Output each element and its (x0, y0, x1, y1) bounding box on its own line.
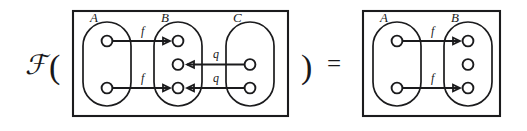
left-set-B-node-0 (173, 36, 184, 47)
right-set-B-node-0 (463, 36, 474, 47)
right-set-A-node-1 (392, 83, 403, 94)
open-paren-symbol: ( (49, 48, 60, 86)
close-paren-symbol: ) (301, 48, 312, 86)
right-set-B-node-2 (463, 83, 474, 94)
figure-canvas: ℱ ( A B C f f q (0, 0, 527, 131)
left-set-C-node-0 (245, 59, 256, 70)
left-edge-q-middle-label: q (213, 47, 219, 61)
left-set-A-node-0 (102, 36, 113, 47)
left-diagram-box: A B C f f q q (73, 10, 288, 116)
left-set-B-label: B (161, 10, 169, 25)
left-edge-q-bottom-label: q (213, 71, 219, 85)
left-set-B-node-2 (173, 83, 184, 94)
left-set-C-label: C (233, 10, 242, 25)
right-diagram-box: A B f f (363, 10, 500, 116)
left-set-C-node-1 (245, 83, 256, 94)
left-set-A-node-1 (102, 83, 113, 94)
right-set-B-node-1 (463, 59, 474, 70)
right-set-B-label: B (451, 10, 459, 25)
right-set-A-label: A (379, 10, 388, 25)
equals-symbol: = (327, 50, 341, 77)
right-set-A-node-0 (392, 36, 403, 47)
left-set-B-node-1 (173, 59, 184, 70)
diagram-svg: ℱ ( A B C f f q (0, 0, 527, 131)
left-set-A-label: A (89, 10, 98, 25)
